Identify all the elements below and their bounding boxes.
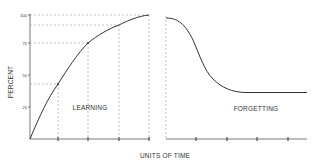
forgetting-x-axis xyxy=(166,16,307,141)
learning-forgetting-chart: 100 75 50 25 PERCENT LEARNING FOR xyxy=(0,0,319,161)
learning-x-axis xyxy=(30,137,150,141)
y-axis: 100 75 50 25 PERCENT xyxy=(7,13,30,140)
y-axis-label: PERCENT xyxy=(7,66,14,98)
forgetting-curve xyxy=(166,18,307,93)
x-axis-label: UNITS OF TIME xyxy=(140,152,191,159)
y-tick-75: 75 xyxy=(23,41,28,46)
learning-guide-lines xyxy=(30,15,149,139)
y-tick-50: 50 xyxy=(23,73,28,78)
learning-curve xyxy=(30,15,149,139)
learning-label: LEARNING xyxy=(73,104,108,111)
y-tick-100: 100 xyxy=(20,13,27,18)
forgetting-label: FORGETTING xyxy=(234,105,279,112)
y-tick-25: 25 xyxy=(23,105,28,110)
